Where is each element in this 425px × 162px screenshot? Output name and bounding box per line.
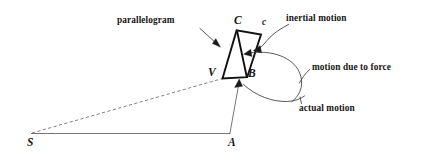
arrowhead-motion-due-to-force xyxy=(244,49,252,56)
point-label-C: C xyxy=(234,15,242,27)
diagram-canvas: parallelogram inertial motion motion due… xyxy=(0,0,425,162)
label-actual-motion: actual motion xyxy=(299,104,355,113)
leader-line-parallelogram xyxy=(200,29,216,44)
label-parallelogram: parallelogram xyxy=(117,16,175,25)
arrowhead-actual-motion-at-B xyxy=(235,79,243,88)
point-label-V: V xyxy=(208,67,216,79)
geometry-figure xyxy=(0,0,425,162)
radius-line-AB xyxy=(230,86,239,134)
point-label-B: B xyxy=(248,68,256,80)
label-inertial-motion: inertial motion xyxy=(286,14,347,23)
label-motion-due-to-force: motion due to force xyxy=(312,63,391,72)
point-label-c-lower: c xyxy=(262,18,266,28)
point-label-S: S xyxy=(27,137,34,149)
leader-curve-inertial-motion xyxy=(260,25,289,49)
point-label-A: A xyxy=(228,137,236,149)
arrowhead-parallelogram xyxy=(212,39,220,48)
dashed-line-SV xyxy=(32,79,223,134)
